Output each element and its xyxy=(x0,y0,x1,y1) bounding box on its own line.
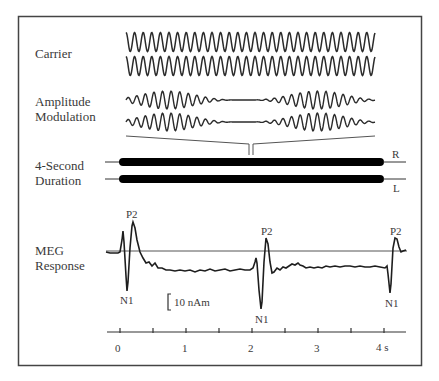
row-label-duration-line1: 4-Second xyxy=(35,158,84,173)
row-label-meg-line2: Response xyxy=(35,258,85,273)
tick-label-2: 2 xyxy=(248,342,254,354)
row-label-carrier: Carrier xyxy=(35,46,72,61)
duration-bar-right xyxy=(119,158,384,166)
tick-label-0: 0 xyxy=(115,342,121,354)
channel-label-right: R xyxy=(392,148,399,160)
row-label-am-line2: Modulation xyxy=(35,109,96,124)
meg-stimulus-figure: Carrier Amplitude Modulation 4-Second Du… xyxy=(0,0,439,381)
row-label-duration-line2: Duration xyxy=(35,173,81,188)
tick-label-4: 4 s xyxy=(376,341,389,353)
peak-label-n1-1: N1 xyxy=(120,294,133,306)
peak-label-n1-3: N1 xyxy=(385,297,398,309)
channel-label-left: L xyxy=(393,182,400,194)
peak-label-p2-1: P2 xyxy=(126,208,138,220)
peak-label-p2-3: P2 xyxy=(390,225,402,237)
row-label-meg-line1: MEG xyxy=(35,243,64,258)
carrier-wave-right xyxy=(126,33,375,52)
peak-label-p2-2: P2 xyxy=(261,225,273,237)
tick-label-1: 1 xyxy=(182,342,188,354)
am-wave-left xyxy=(126,113,375,131)
tick-label-3: 3 xyxy=(314,342,320,354)
zoom-bracket xyxy=(126,136,375,155)
peak-label-n1-2: N1 xyxy=(255,313,268,325)
am-wave-right xyxy=(126,91,375,109)
carrier-wave-left xyxy=(126,57,375,76)
scale-bar-label: 10 nAm xyxy=(174,296,210,308)
meg-trace xyxy=(106,222,406,309)
scale-bar xyxy=(168,294,171,310)
row-label-am-line1: Amplitude xyxy=(35,94,91,109)
duration-bar-left xyxy=(119,175,384,183)
